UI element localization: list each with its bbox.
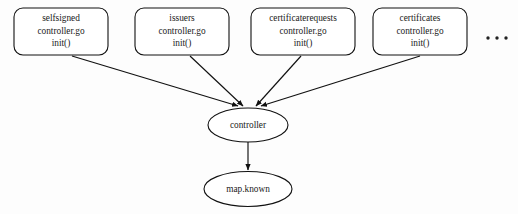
ellipsis-dot-1	[486, 36, 489, 39]
node-certificates-line3: init()	[411, 38, 430, 49]
edge-issuers-to-controller	[190, 56, 243, 106]
node-certificates-line2: controller.go	[396, 26, 444, 36]
node-issuers-line3: init()	[173, 38, 192, 49]
node-issuers[interactable]: issuers controller.go init()	[135, 8, 229, 55]
ellipsis-dot-2	[495, 36, 498, 39]
node-certificates[interactable]: certificates controller.go init()	[373, 8, 467, 55]
node-certificaterequests-line2: controller.go	[279, 26, 327, 36]
package-registration-diagram: selfsigned controller.go init() issuers …	[0, 0, 518, 214]
node-selfsigned-line2: controller.go	[37, 26, 85, 36]
diagram-canvas: selfsigned controller.go init() issuers …	[0, 0, 518, 214]
node-selfsigned-line1: selfsigned	[42, 13, 80, 23]
node-certificaterequests[interactable]: certificaterequests controller.go init()	[251, 8, 355, 55]
edge-certificates-to-controller	[261, 56, 420, 106]
edge-selfsigned-to-controller	[72, 56, 238, 106]
node-certificates-line1: certificates	[400, 13, 441, 23]
edge-certificaterequests-to-controller	[256, 56, 301, 106]
node-certificaterequests-line1: certificaterequests	[269, 13, 337, 23]
ellipsis-more-controllers	[486, 36, 507, 39]
node-certificaterequests-line3: init()	[294, 38, 313, 49]
node-selfsigned[interactable]: selfsigned controller.go init()	[14, 8, 108, 55]
edge-group-init-calls	[72, 56, 420, 106]
node-selfsigned-line3: init()	[52, 38, 71, 49]
node-map-known[interactable]: map.known	[204, 172, 292, 207]
node-controller-hub-label: controller	[230, 120, 267, 130]
node-issuers-line2: controller.go	[158, 26, 206, 36]
node-issuers-line1: issuers	[169, 13, 195, 23]
node-controller-hub[interactable]: controller	[208, 108, 288, 142]
ellipsis-dot-3	[504, 36, 507, 39]
node-map-known-label: map.known	[226, 184, 270, 194]
